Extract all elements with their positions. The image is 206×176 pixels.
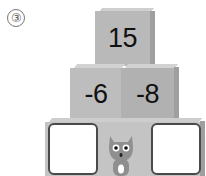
cube-value: 15 [95,11,150,66]
cube-middle-left: -6 [70,64,122,120]
problem-number-label: ③ [7,9,25,27]
cube-side-face [174,67,179,120]
answer-box-left[interactable] [48,123,98,175]
cube-top: 15 [95,8,155,66]
cat-icon [104,131,138,176]
cube-value: -8 [121,68,174,120]
cube-side-face [150,11,155,66]
answer-box-right[interactable] [151,123,201,175]
cube-value: -6 [70,68,122,120]
cube-middle-right: -8 [121,64,179,120]
